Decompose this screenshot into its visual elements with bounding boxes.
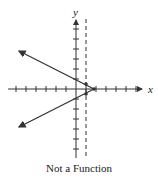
figure-caption: Not a Function [0,162,158,174]
intersection-upper [84,82,88,86]
graph: x y [0,0,158,180]
lower-ray [19,89,94,127]
x-axis [8,86,142,92]
x-axis-label: x [147,83,153,95]
upper-ray [19,51,94,89]
y-axis-label: y [72,6,78,18]
vertex [92,87,96,91]
intersection-lower [84,92,88,96]
